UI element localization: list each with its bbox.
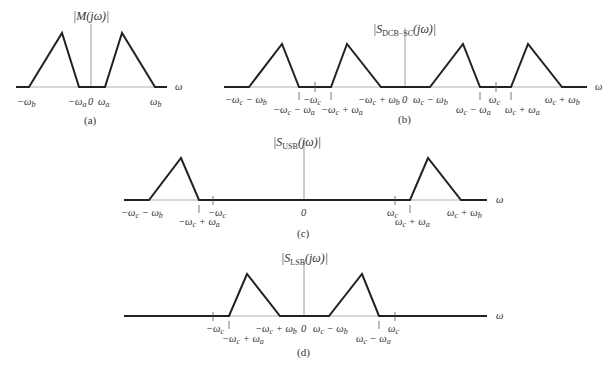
panel-b-tick-neg-wc-plus-wa: −ωc + ωa <box>321 104 363 117</box>
panel-a-tick-wb: ωb <box>150 96 161 109</box>
panel-a-title: |M(jω)| <box>73 9 109 23</box>
panel-c-tick-wc-plus-wa: ωc + ωa <box>395 216 430 229</box>
panel-b-tick-wc-minus-wa: ωc − ωa <box>456 104 491 117</box>
panel-d-tick-neg-wc-plus-wa: −ωc + ωa <box>222 333 264 346</box>
panel-b-tick-wc-plus-wa: ωc + ωa <box>505 104 540 117</box>
panel-b-tick-neg-wc-minus-wb: −ωc − ωb <box>225 94 267 107</box>
panel-b-title: |SDCB−SC(jω)| <box>373 22 436 38</box>
panel-d-caption: (d) <box>297 346 310 359</box>
panel-c-tick-wc-plus-wb: ωc + ωb <box>447 207 482 220</box>
panel-d-title: |SLSB(jω)| <box>281 251 328 267</box>
panel-b-tick-neg-wc-plus-wb: −ωc + ωb <box>358 94 400 107</box>
panel-a-message-spectrum: |M(jω)| ω −ωb −ωa 0 ωa ωb (a) <box>16 9 182 127</box>
panel-d-omega-axis-label: ω <box>496 310 503 321</box>
panel-b-caption: (b) <box>398 113 411 126</box>
panel-c-tick-neg-wc-minus-wb: −ωc − ωb <box>121 207 163 220</box>
panel-c-usb-spectrum: |SUSB(jω)| ω −ωc − ωb −ωc 0 ωc ωc + ωb −… <box>121 135 503 240</box>
panel-b-tick-zero: 0 <box>402 94 408 105</box>
panel-d-tick-wc: ωc <box>388 323 399 336</box>
panel-c-tick-neg-wc-plus-wa: −ωc + ωa <box>178 216 220 229</box>
panel-a-tick-neg-wb: −ωb <box>17 96 36 109</box>
panel-d-tick-wc-minus-wb: ωc − ωb <box>313 323 348 336</box>
panel-d-tick-wc-minus-wa: ωc − ωa <box>356 333 391 346</box>
panel-d-lsb-spectrum: |SLSB(jω)| ω −ωc −ωc + ωb 0 ωc − ωb ωc −… <box>124 251 503 359</box>
panel-a-tick-neg-wa: −ωa <box>68 96 87 109</box>
panel-a-tick-zero: 0 <box>88 96 94 107</box>
panel-a-caption: (a) <box>84 114 97 127</box>
panel-c-caption: (c) <box>297 227 310 240</box>
panel-a-tick-wa: ωa <box>98 96 109 109</box>
panel-a-omega-axis-label: ω <box>175 81 182 92</box>
panel-c-tick-zero: 0 <box>301 207 307 218</box>
panel-b-dsb-sc-spectrum: |SDCB−SC(jω)| ω −ωc − ωb −ωc −ωc + ωb 0 … <box>224 22 602 126</box>
panel-b-tick-wc: ωc <box>489 94 500 107</box>
panel-b-tick-wc-minus-wb: ωc − ωb <box>413 94 448 107</box>
panel-c-spectrum-curve <box>124 158 487 200</box>
panel-d-tick-neg-wc-plus-wb: −ωc + ωb <box>255 323 297 336</box>
panel-b-omega-axis-label: ω <box>595 81 602 92</box>
panel-c-omega-axis-label: ω <box>496 194 503 205</box>
panel-d-tick-zero: 0 <box>301 323 307 334</box>
panel-b-tick-wc-plus-wb: ωc + ωb <box>545 94 580 107</box>
panel-b-tick-neg-wc-minus-wa: −ωc − ωa <box>273 104 315 117</box>
panel-d-spectrum-curve <box>124 274 487 316</box>
panel-c-title: |SUSB(jω)| <box>273 135 321 151</box>
modulation-spectra-figure: |M(jω)| ω −ωb −ωa 0 ωa ωb (a) |SDCB−SC(j… <box>0 0 611 370</box>
